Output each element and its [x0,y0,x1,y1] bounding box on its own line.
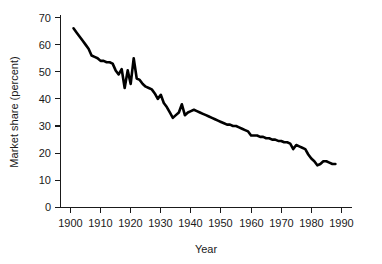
y-tick-label: 50 [39,66,51,78]
x-tick-label: 1990 [329,217,353,229]
chart-container: 70 60 50 40 30 20 10 0 1900 1910 1920 [0,0,382,264]
y-tick-label: 0 [45,201,51,213]
x-tick-label: 1910 [88,217,112,229]
y-tick-label: 20 [39,147,51,159]
x-tick-label: 1940 [178,217,202,229]
x-tick-label: 1920 [118,217,142,229]
y-tick-label: 40 [39,93,51,105]
y-tick-label: 60 [39,39,51,51]
y-tick-label: 10 [39,174,51,186]
y-tick-label: 30 [39,120,51,132]
x-tick-label: 1980 [299,217,323,229]
x-axis-title: Year [195,243,218,255]
line-chart: 70 60 50 40 30 20 10 0 1900 1910 1920 [0,0,382,264]
x-tick-label: 1930 [148,217,172,229]
x-tick-label: 1900 [58,217,82,229]
y-tick-label: 70 [39,12,51,24]
x-tick-label: 1970 [269,217,293,229]
x-tick-label: 1950 [208,217,232,229]
x-tick-label: 1960 [239,217,263,229]
y-axis-title: Market share (percent) [8,56,20,167]
